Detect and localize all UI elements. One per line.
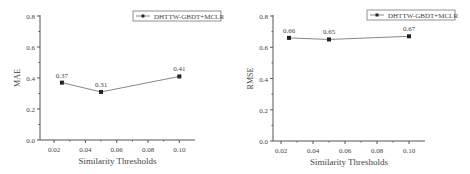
rmse-chart: 0.00.20.40.60.80.020.040.060.080.10Simil… xyxy=(235,0,470,174)
y-tick-label: 0.8 xyxy=(259,13,268,21)
x-tick-label: 0.02 xyxy=(275,147,288,155)
x-tick-label: 0.10 xyxy=(173,146,186,154)
series-line: 0.660.650.67 xyxy=(283,25,416,41)
y-tick-label: 0.0 xyxy=(259,138,268,146)
legend: DHTTW-GBDT+MCLR xyxy=(133,11,224,21)
x-tick-label: 0.10 xyxy=(403,147,416,155)
y-tick-label: 0.0 xyxy=(26,137,35,145)
y-axis-label: MAE xyxy=(13,69,22,87)
x-axis-label: Similarity Thresholds xyxy=(78,156,157,166)
data-label: 0.66 xyxy=(283,27,296,35)
mae-chart: 0.00.20.40.60.80.020.040.060.080.10Simil… xyxy=(0,0,235,174)
y-axis-label: RMSE xyxy=(246,68,255,90)
data-point-marker xyxy=(327,37,331,41)
data-point-marker xyxy=(287,36,291,40)
x-axis-label: Similarity Thresholds xyxy=(310,157,389,167)
y-tick-label: 0.4 xyxy=(26,75,35,83)
x-tick-label: 0.08 xyxy=(371,147,384,155)
y-tick-label: 0.8 xyxy=(26,13,35,21)
x-tick-label: 0.06 xyxy=(339,147,352,155)
legend-label: DHTTW-GBDT+MCLR xyxy=(388,12,458,20)
series-line: 0.370.310.41 xyxy=(56,65,186,94)
x-tick-label: 0.02 xyxy=(48,146,61,154)
data-label: 0.67 xyxy=(403,25,416,33)
y-tick-label: 0.2 xyxy=(26,106,35,114)
legend-label: DHTTW-GBDT+MCLR xyxy=(154,13,224,21)
x-tick-label: 0.04 xyxy=(79,146,92,154)
axes: 0.00.20.40.60.80.020.040.060.080.10 xyxy=(26,13,195,154)
x-tick-label: 0.04 xyxy=(307,147,320,155)
x-tick-label: 0.08 xyxy=(142,146,155,154)
data-label: 0.37 xyxy=(56,72,69,80)
data-point-marker xyxy=(60,81,64,85)
x-tick-label: 0.06 xyxy=(111,146,124,154)
data-point-marker xyxy=(407,34,411,38)
data-point-marker xyxy=(177,74,181,78)
y-tick-label: 0.6 xyxy=(26,44,35,52)
y-tick-label: 0.4 xyxy=(259,76,268,84)
y-tick-label: 0.2 xyxy=(259,107,268,115)
legend: DHTTW-GBDT+MCLR xyxy=(367,10,458,20)
data-label: 0.65 xyxy=(323,28,336,36)
data-point-marker xyxy=(99,90,103,94)
data-label: 0.41 xyxy=(173,65,186,73)
y-tick-label: 0.6 xyxy=(259,44,268,52)
data-label: 0.31 xyxy=(95,81,108,89)
